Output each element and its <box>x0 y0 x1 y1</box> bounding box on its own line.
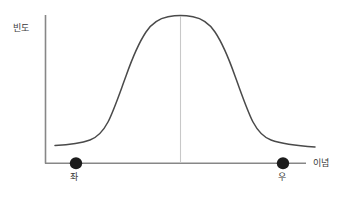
frequency-distribution-curve <box>55 16 315 147</box>
x-axis-label: 이념 <box>313 159 329 168</box>
ideology-distribution-figure: 빈도 이념 좌 우 <box>0 0 345 197</box>
x-tick-label-left: 좌 <box>70 173 78 182</box>
x-tick-label-right: 우 <box>278 173 286 182</box>
y-axis-label: 빈도 <box>13 24 29 33</box>
distribution-chart-canvas <box>0 0 345 197</box>
left-pole-dot <box>70 157 82 169</box>
right-pole-dot <box>277 157 289 169</box>
